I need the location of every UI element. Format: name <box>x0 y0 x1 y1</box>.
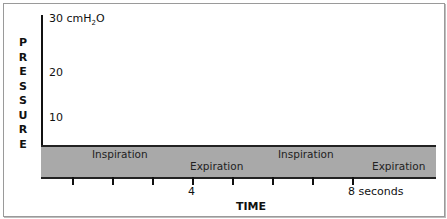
x-tick <box>72 177 74 185</box>
x-label-8-seconds: 8 seconds <box>348 185 403 198</box>
x-axis-title: TIME <box>236 200 266 213</box>
y-title-letter: S <box>17 80 29 95</box>
x-tick <box>192 177 194 185</box>
y-tick-30: 30 cmH2O <box>49 12 105 27</box>
phase-inspiration-1: Inspiration <box>92 148 148 160</box>
x-tick <box>352 177 354 185</box>
y-axis-title: P R E S S U R E <box>17 36 29 152</box>
phase-expiration-2: Expiration <box>372 160 425 172</box>
x-tick <box>232 177 234 185</box>
y-title-letter: E <box>17 65 29 80</box>
x-tick <box>312 177 314 185</box>
y-title-letter: E <box>17 138 29 153</box>
x-tick <box>272 177 274 185</box>
y-title-letter: U <box>17 109 29 124</box>
x-tick <box>152 177 154 185</box>
y-title-letter: P <box>17 36 29 51</box>
phase-inspiration-2: Inspiration <box>278 148 334 160</box>
x-tick <box>112 177 114 185</box>
y-title-letter: R <box>17 123 29 138</box>
y-tick-20: 20 <box>49 66 63 79</box>
x-label-4: 4 <box>188 185 195 198</box>
y-title-letter: S <box>17 94 29 109</box>
phase-expiration-1: Expiration <box>190 160 243 172</box>
y-title-letter: R <box>17 51 29 66</box>
y-tick-10: 10 <box>49 111 63 124</box>
